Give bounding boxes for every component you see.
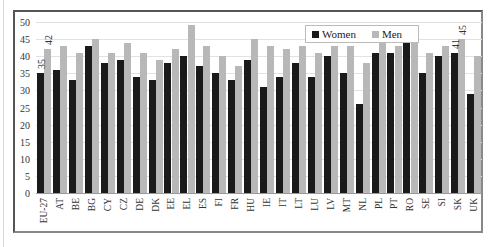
bar-women-pt — [387, 53, 394, 193]
y-tick-label: 15 — [6, 136, 30, 147]
bar-women-se — [419, 73, 426, 193]
bar-women-fi — [212, 73, 219, 193]
bar-women-hu — [244, 60, 251, 193]
x-tick-label: UK — [469, 198, 479, 212]
x-tick-label: IE — [262, 198, 272, 207]
x-tick-label: NL — [358, 198, 368, 211]
bar-men-de — [140, 53, 147, 193]
bar-men-dk — [156, 60, 163, 193]
y-tick-label: 0 — [6, 188, 30, 199]
data-label: 41 — [450, 39, 461, 49]
bar-men-eu-27 — [44, 49, 51, 193]
bar-women-cz — [117, 60, 124, 193]
bar-women-el — [180, 56, 187, 193]
x-tick-label: EE — [166, 198, 176, 210]
x-tick-label: HU — [246, 198, 256, 212]
y-tick-label: 20 — [6, 119, 30, 130]
page-edge-line — [3, 0, 4, 247]
bar-men-nl — [363, 63, 370, 193]
x-tick-label: IT — [278, 198, 288, 207]
bar-men-ie — [267, 46, 274, 193]
x-tick-label: SK — [453, 198, 463, 210]
bar-men-el — [188, 25, 195, 193]
bar-men-cy — [108, 53, 115, 193]
x-tick-label: CZ — [119, 198, 129, 210]
bar-women-ee — [164, 63, 171, 193]
legend-swatch-men — [372, 31, 379, 38]
x-tick-label: ES — [198, 198, 208, 209]
x-tick-label: FR — [230, 198, 240, 210]
bar-men-lu — [315, 53, 322, 193]
x-tick-label: AT — [55, 198, 65, 210]
bar-women-lv — [324, 56, 331, 193]
x-tick-label: BG — [87, 198, 97, 211]
legend-label-women: Women — [322, 28, 356, 40]
y-tick-label: 5 — [6, 170, 30, 181]
bar-women-si — [435, 56, 442, 193]
plot-area — [36, 22, 482, 193]
y-tick-label: 45 — [6, 34, 30, 45]
y-tick-label: 25 — [6, 102, 30, 113]
bar-men-mt — [347, 46, 354, 193]
bar-men-pt — [395, 46, 402, 193]
x-tick-label: SE — [421, 198, 431, 209]
bar-women-bg — [85, 46, 92, 193]
bar-men-at — [60, 46, 67, 193]
bar-women-sk — [451, 53, 458, 193]
bar-men-bg — [92, 39, 99, 193]
data-label: 42 — [43, 35, 54, 45]
bar-women-be — [69, 80, 76, 193]
bar-women-fr — [228, 80, 235, 193]
bar-men-uk — [474, 56, 481, 193]
x-tick-label: PT — [389, 198, 399, 209]
bar-women-ie — [260, 87, 267, 193]
gridline — [36, 22, 482, 23]
bar-men-lt — [299, 46, 306, 193]
bar-men-hu — [251, 39, 258, 193]
bar-women-mt — [340, 73, 347, 193]
bar-women-lu — [308, 77, 315, 193]
legend-label-men: Men — [382, 28, 402, 40]
x-tick-label: CY — [103, 198, 113, 211]
bar-women-ro — [403, 43, 410, 193]
bar-men-be — [76, 53, 83, 193]
y-tick-label: 30 — [6, 85, 30, 96]
x-tick-label: MT — [342, 198, 352, 212]
bar-women-lt — [292, 63, 299, 193]
y-tick-label: 35 — [6, 68, 30, 79]
bar-men-sk — [458, 39, 465, 193]
x-tick-label: EU-27 — [39, 198, 49, 223]
bar-women-es — [196, 66, 203, 193]
x-tick-label: LT — [294, 198, 304, 209]
x-tick-label: LU — [310, 198, 320, 211]
bar-men-es — [203, 46, 210, 193]
y-tick-label: 10 — [6, 153, 30, 164]
bar-women-it — [276, 77, 283, 193]
bar-men-ee — [172, 49, 179, 193]
y-tick-label: 40 — [6, 51, 30, 62]
x-tick-label: PL — [374, 198, 384, 209]
bar-women-de — [133, 77, 140, 193]
legend-swatch-women — [312, 31, 319, 38]
data-label: 45 — [457, 25, 468, 35]
x-tick-label: BE — [71, 198, 81, 210]
bar-women-pl — [372, 53, 379, 193]
x-tick-label: DE — [135, 198, 145, 211]
bar-men-cz — [124, 43, 131, 193]
x-tick-label: SI — [437, 198, 447, 206]
bar-men-pl — [379, 32, 386, 193]
bar-men-fi — [219, 56, 226, 193]
bar-men-fr — [235, 66, 242, 193]
bar-women-dk — [149, 80, 156, 193]
x-tick-label: EL — [182, 198, 192, 210]
bar-men-lv — [331, 46, 338, 193]
bar-women-nl — [356, 104, 363, 193]
x-tick-label: FI — [214, 198, 224, 206]
bar-men-si — [442, 46, 449, 193]
x-tick-label: LV — [326, 198, 336, 210]
bar-men-it — [283, 49, 290, 193]
data-label: 35 — [36, 59, 47, 69]
bar-women-at — [53, 70, 60, 193]
legend: Women Men — [305, 25, 419, 43]
x-tick-label: DK — [151, 198, 161, 212]
